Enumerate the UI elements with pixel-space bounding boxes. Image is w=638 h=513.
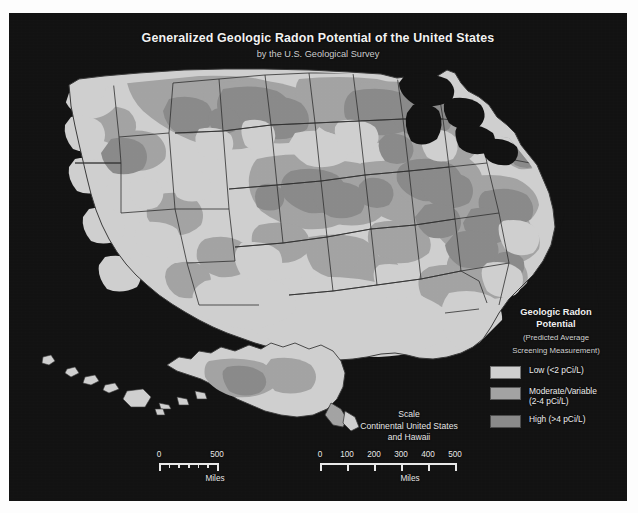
legend-label-low-line1: Low (<2 pCi/L): [529, 365, 584, 376]
scalebar-continental-ticklabels: 0100200300400500: [320, 450, 500, 461]
scalebar-alaska-ticklabels: 0500: [159, 450, 279, 461]
scale-tick: [347, 463, 349, 471]
scale-tick-label: 300: [394, 450, 408, 459]
scale-tick: [207, 463, 209, 468]
scale-tick: [169, 463, 171, 468]
scalebar-alaska: 0500 Miles: [159, 450, 279, 483]
legend-label-moderate: Moderate/Variable (2-4 pCi/L): [529, 386, 597, 407]
scale-tick: [374, 463, 376, 471]
legend-title-line2: Potential: [490, 319, 622, 331]
scale-tick-label: 200: [367, 450, 381, 459]
radon-potential-map-figure: Generalized Geologic Radon Potential of …: [0, 0, 638, 513]
legend-subtitle-line1: (Predicted Average: [490, 333, 622, 343]
scale-tick-label: 400: [421, 450, 435, 459]
legend-label-moderate-line1: Moderate/Variable: [529, 386, 597, 397]
scale-tick: [188, 463, 190, 468]
scalebar-alaska-unit: Miles: [151, 474, 279, 483]
scale-tick: [320, 463, 322, 471]
scalebar-continental-unit: Miles: [320, 474, 500, 483]
legend-swatch-moderate: [490, 387, 521, 400]
legend-swatch-low: [490, 366, 521, 379]
legend-item-moderate: Moderate/Variable (2-4 pCi/L): [490, 386, 622, 407]
scale-tick: [455, 463, 457, 471]
scalebar-continental: 0100200300400500 Miles: [320, 450, 500, 483]
legend-subtitle-line2: Screening Measurement): [490, 346, 622, 356]
legend-title-line1: Geologic Radon: [490, 307, 622, 319]
scale-caption-line3: and Hawaii: [299, 432, 519, 444]
scale-tick-label: 0: [318, 450, 323, 459]
scale-tick: [217, 463, 219, 471]
legend-label-high: High (>4 pCi/L): [529, 414, 586, 425]
map-title: Generalized Geologic Radon Potential of …: [9, 31, 627, 46]
legend-label-moderate-line2: (2-4 pCi/L): [529, 396, 597, 407]
title-block: Generalized Geologic Radon Potential of …: [9, 31, 627, 61]
scale-caption: Scale Continental United States and Hawa…: [299, 409, 519, 444]
legend-label-high-line1: High (>4 pCi/L): [529, 414, 586, 425]
scale-tick: [178, 463, 180, 468]
scale-tick-label: 500: [448, 450, 462, 459]
scalebar-continental-ruler: [320, 463, 500, 472]
scale-tick-label: 100: [340, 450, 354, 459]
scalebar-alaska-ruler: [159, 463, 279, 472]
scale-tick: [198, 463, 200, 468]
hawaii-inset: [42, 355, 165, 415]
scale-tick: [428, 463, 430, 471]
scale-tick-label: 500: [210, 450, 224, 459]
scale-caption-line2: Continental United States: [299, 421, 519, 433]
scale-caption-line1: Scale: [299, 409, 519, 421]
legend-item-low: Low (<2 pCi/L): [490, 365, 622, 379]
scale-tick: [401, 463, 403, 471]
scale-tick-label: 0: [157, 450, 162, 459]
scale-tick: [159, 463, 161, 471]
map-panel: Generalized Geologic Radon Potential of …: [9, 13, 627, 501]
legend-label-low: Low (<2 pCi/L): [529, 365, 584, 376]
map-subtitle: by the U.S. Geological Survey: [9, 48, 627, 61]
scale-bar-line: [320, 463, 455, 465]
